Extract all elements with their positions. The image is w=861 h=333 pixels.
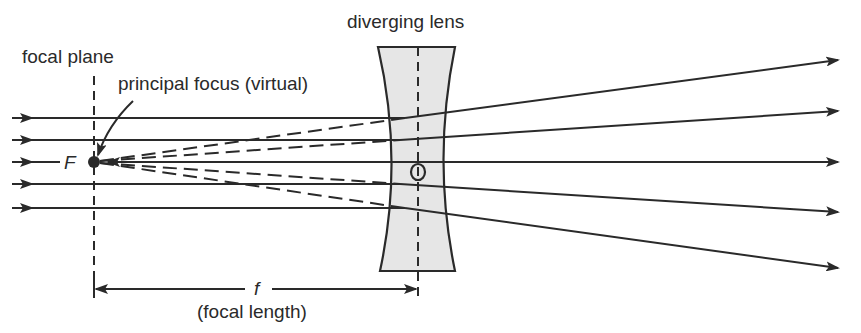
- focal-length-symbol: f: [254, 278, 261, 299]
- principal-focus-point: [88, 156, 100, 168]
- principal-focus-label: principal focus (virtual): [118, 73, 308, 94]
- lens-label: diverging lens: [347, 11, 464, 32]
- outgoing-rays: [400, 60, 838, 268]
- focus-symbol-label: F: [64, 152, 77, 173]
- focal-length-caption: (focal length): [197, 301, 307, 322]
- diagram-canvas: focal plane principal focus (virtual) di…: [0, 0, 861, 333]
- diverging-lens: [378, 47, 455, 298]
- focal-plane-label: focal plane: [22, 46, 114, 67]
- focus-pointer-arrow: [98, 101, 133, 155]
